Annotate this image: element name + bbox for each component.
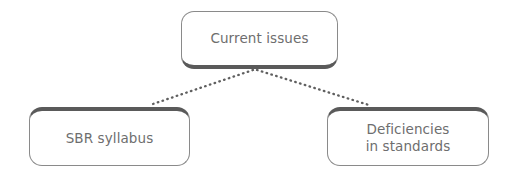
- node-current-issues-label: Current issues: [210, 30, 308, 47]
- node-sbr-syllabus-label: SBR syllabus: [66, 130, 154, 147]
- node-current-issues[interactable]: Current issues: [181, 11, 338, 69]
- node-deficiencies-in-standards[interactable]: Deficiencies in standards: [327, 107, 489, 166]
- diagram-canvas: Current issues SBR syllabus Deficiencies…: [0, 0, 515, 177]
- node-sbr-syllabus[interactable]: SBR syllabus: [29, 107, 190, 166]
- connector-current-issues-to-sbr-syllabus: [150, 70, 253, 105]
- connector-current-issues-to-deficiencies: [257, 70, 369, 105]
- node-deficiencies-in-standards-label: Deficiencies in standards: [366, 121, 451, 155]
